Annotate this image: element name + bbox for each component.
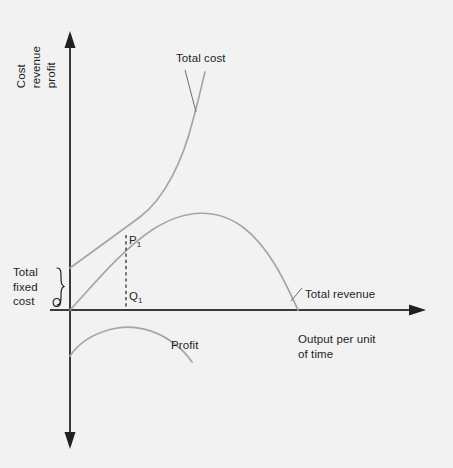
y-axis-arrow-down-icon xyxy=(65,432,76,449)
point-p1-label: P1 xyxy=(129,233,141,248)
y-axis-label: Cost revenue profit xyxy=(14,46,36,88)
point-p1-subscript: 1 xyxy=(137,240,142,249)
total-cost-label: Total cost xyxy=(176,51,226,66)
x-axis-arrow-right-icon xyxy=(409,305,426,316)
profit-curve-label: Profit xyxy=(171,338,198,353)
point-p1-letter: P xyxy=(129,234,137,246)
chart-canvas xyxy=(0,0,453,468)
y-axis-arrow-up-icon xyxy=(65,31,76,48)
point-q1-label: Q1 xyxy=(129,289,143,304)
total-revenue-leader-line xyxy=(291,288,302,301)
x-axis-label: Output per unit of time xyxy=(298,332,418,361)
break-even-chart-figure: Cost revenue profit Total fixed cost O T… xyxy=(0,0,453,468)
total-revenue-label: Total revenue xyxy=(305,287,375,302)
total-fixed-cost-label: Total fixed cost xyxy=(13,265,55,309)
total-cost-leader-line xyxy=(185,70,196,112)
origin-label: O xyxy=(52,296,61,311)
point-q1-letter: Q xyxy=(129,290,138,302)
total-revenue-curve xyxy=(70,213,298,310)
point-q1-subscript: 1 xyxy=(138,296,143,305)
